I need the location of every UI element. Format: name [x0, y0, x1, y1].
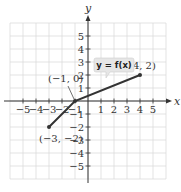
- point-label-neg1-0: (−1, 0): [48, 73, 83, 84]
- point-label-neg3-neg2: (−3, −2): [39, 133, 83, 144]
- y-tick-label: −1: [69, 109, 84, 120]
- data-point-marker: [73, 99, 77, 103]
- y-axis-arrow-icon: [86, 15, 91, 21]
- y-axis-label: y: [84, 2, 92, 15]
- x-axis-arrow-icon: [166, 99, 172, 104]
- y-tick-label: −2: [69, 122, 84, 133]
- x-tick-label: 3: [124, 104, 130, 115]
- data-point-marker: [47, 125, 51, 129]
- x-tick-label: 2: [111, 104, 117, 115]
- data-point-marker: [138, 73, 142, 77]
- y-tick-label: 5: [78, 31, 84, 42]
- y-tick-label: 4: [78, 44, 84, 55]
- axes: xy: [4, 2, 181, 183]
- y-tick-label: 3: [78, 57, 84, 68]
- y-tick-label: −5: [69, 161, 84, 172]
- point-annotations: (−3, −2)(−1, 0)(4, 2): [39, 60, 156, 144]
- x-tick-label: 4: [137, 104, 143, 115]
- function-graph: xy −5−4−3−2−112345−5−4−3−2−112345 (−3, −…: [0, 0, 181, 192]
- y-tick-label: 1: [78, 83, 84, 94]
- x-axis-label: x: [174, 95, 181, 108]
- callout-text: y = f(x): [96, 60, 132, 70]
- y-tick-label: −4: [69, 148, 84, 159]
- x-tick-label: 1: [98, 104, 104, 115]
- x-tick-label: 5: [150, 104, 156, 115]
